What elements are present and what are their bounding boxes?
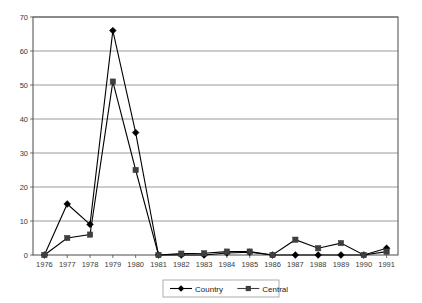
data-point-central-1986: [270, 252, 275, 257]
x-tick-label-1979: 1979: [105, 260, 122, 269]
x-tick-label-1982: 1982: [173, 260, 190, 269]
data-point-central-1982: [179, 251, 184, 256]
x-tick-label-1987: 1987: [287, 260, 304, 269]
data-point-central-1990: [361, 252, 366, 257]
x-tick-label-1980: 1980: [127, 260, 144, 269]
data-point-central-1979: [110, 79, 115, 84]
y-tick-label-40: 40: [20, 115, 28, 124]
y-tick-label-50: 50: [20, 81, 28, 90]
data-point-central-1981: [156, 252, 161, 257]
data-point-central-1989: [338, 240, 343, 245]
chart-canvas: 010203040506070 197619771978197919801981…: [0, 0, 422, 303]
data-point-central-1980: [133, 167, 138, 172]
x-tick-label-1989: 1989: [333, 260, 350, 269]
x-tick-label-1976: 1976: [36, 260, 53, 269]
x-tick-label-1988: 1988: [310, 260, 327, 269]
legend-marker-central: [246, 286, 251, 291]
y-tick-label-60: 60: [20, 47, 28, 56]
x-tick-label-1986: 1986: [264, 260, 281, 269]
y-tick-label-30: 30: [20, 149, 28, 158]
data-point-central-1977: [65, 235, 70, 240]
data-point-central-1987: [293, 237, 298, 242]
x-tick-label-1990: 1990: [355, 260, 372, 269]
y-tick-label-0: 0: [24, 251, 28, 260]
x-tick-label-1981: 1981: [150, 260, 167, 269]
x-tick-label-1977: 1977: [59, 260, 76, 269]
y-axis-tick-labels: 010203040506070: [20, 13, 33, 260]
data-point-central-1983: [201, 251, 206, 256]
data-point-central-1985: [247, 249, 252, 254]
data-point-central-1988: [315, 246, 320, 251]
data-point-central-1976: [42, 252, 47, 257]
x-tick-label-1984: 1984: [219, 260, 236, 269]
data-point-central-1978: [87, 232, 92, 237]
y-tick-label-20: 20: [20, 183, 28, 192]
legend-label-country: Country: [195, 285, 223, 294]
y-tick-label-70: 70: [20, 13, 28, 22]
legend-label-central: Central: [262, 285, 288, 294]
y-tick-label-10: 10: [20, 217, 28, 226]
plot-background: [33, 17, 398, 255]
data-point-central-1984: [224, 249, 229, 254]
x-tick-label-1978: 1978: [82, 260, 99, 269]
x-tick-label-1991: 1991: [378, 260, 395, 269]
x-axis-tick-labels: 1976197719781979198019811982198319841985…: [36, 260, 395, 269]
x-tick-label-1983: 1983: [196, 260, 213, 269]
data-point-central-1991: [384, 249, 389, 254]
chart-legend: CountryCentral: [163, 280, 288, 297]
line-chart: 010203040506070 197619771978197919801981…: [0, 0, 422, 303]
x-tick-label-1985: 1985: [241, 260, 258, 269]
